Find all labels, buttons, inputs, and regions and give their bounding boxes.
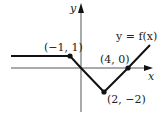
y-axis-arrow-icon [78,3,84,13]
point-4-0 [125,65,130,70]
point-label-neg1-1: (−1, 1) [44,41,83,54]
point-label-4-0: (4, 0) [100,53,130,66]
function-graph: y x y = f(x) (−1, 1) (4, 0) (2, −2) [0,0,163,118]
point-2-neg2 [101,89,106,94]
point-neg1-1 [67,53,72,58]
point-label-2-neg2: (2, −2) [107,93,146,106]
x-axis-label: x [148,70,155,83]
function-label: y = f(x) [115,30,157,43]
y-axis-label: y [69,2,77,15]
